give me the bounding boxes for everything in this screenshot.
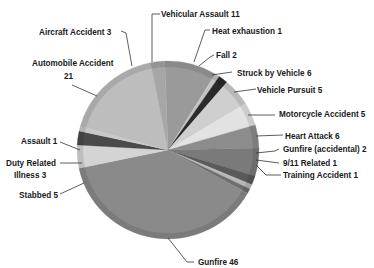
- leader-vehicular-assault: [152, 14, 160, 62]
- leader-fall: [199, 55, 214, 66]
- pie-slices: [77, 61, 259, 239]
- label-stabbed: Stabbed 5: [19, 189, 58, 200]
- leader-heart-attack: [256, 135, 283, 136]
- label-training-accident: Training Accident 1: [283, 169, 358, 180]
- leader-aircraft: [121, 31, 132, 66]
- label-automobile-line2: 21: [64, 70, 73, 81]
- label-duty-related-line1: Duty Related: [6, 157, 56, 168]
- label-gunfire: Gunfire 46: [198, 256, 238, 267]
- leader-nine-eleven: [256, 160, 279, 163]
- leader-gunfire-accidental: [256, 149, 279, 153]
- leader-training: [256, 165, 281, 175]
- leader-struck-by-vehicle: [212, 72, 232, 75]
- label-motorcycle-accident: Motorcycle Accident 5: [279, 108, 365, 119]
- label-duty-related-line2: Illness 3: [14, 169, 46, 180]
- leader-vehicle-pursuit: [234, 89, 256, 92]
- label-fall: Fall 2: [216, 49, 237, 60]
- label-assault: Assault 1: [21, 135, 57, 146]
- leader-stabbed: [60, 183, 84, 194]
- label-struck-by-vehicle: Struck by Vehicle 6: [237, 67, 311, 78]
- leader-gunfire: [168, 238, 194, 262]
- label-vehicle-pursuit: Vehicle Pursuit 5: [257, 84, 322, 95]
- label-nine-eleven-related: 9/11 Related 1: [283, 157, 337, 168]
- leader-heat-exhaustion: [194, 30, 210, 62]
- label-heat-exhaustion: Heat exhaustion 1: [212, 25, 282, 36]
- label-aircraft-accident: Aircraft Accident 3: [39, 26, 111, 37]
- label-vehicular-assault: Vehicular Assault 11: [161, 8, 240, 19]
- label-heart-attack: Heart Attack 6: [285, 130, 340, 141]
- leader-automobile: [72, 85, 97, 96]
- label-automobile-line1: Automobile Accident: [32, 57, 113, 68]
- label-gunfire-accidental: Gunfire (accidental) 2: [283, 143, 367, 154]
